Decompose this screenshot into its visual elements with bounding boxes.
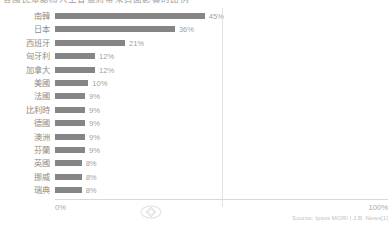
- bar-value-label: 8%: [86, 171, 97, 184]
- category-label: 日本: [0, 23, 50, 36]
- bar-row: 南韓45%: [0, 10, 392, 23]
- bar-row: 美國10%: [0, 77, 392, 90]
- bar-value-label: 8%: [86, 157, 97, 170]
- bar-value-label: 12%: [99, 50, 114, 63]
- bar: [55, 147, 85, 153]
- bar-value-label: 9%: [89, 90, 100, 103]
- x-axis-baseline: [55, 199, 388, 200]
- bar: [55, 67, 95, 73]
- category-label: 德國: [0, 117, 50, 130]
- category-label: 瑞典: [0, 184, 50, 197]
- category-label: 芬蘭: [0, 144, 50, 157]
- bar-value-label: 9%: [89, 144, 100, 157]
- bar-row: 日本36%: [0, 23, 392, 36]
- category-label: 英國: [0, 157, 50, 170]
- bar: [55, 40, 125, 46]
- x-axis-tick-0: 0%: [55, 203, 66, 212]
- bar: [55, 120, 85, 126]
- bar-value-label: 12%: [99, 64, 114, 77]
- category-label: 加拿大: [0, 64, 50, 77]
- bar-row: 德國9%: [0, 117, 392, 130]
- bar-row: 澳洲9%: [0, 131, 392, 144]
- bar-row: 法國9%: [0, 90, 392, 103]
- category-label: 澳洲: [0, 131, 50, 144]
- bar-row: 芬蘭9%: [0, 144, 392, 157]
- bar-row: 加拿大12%: [0, 64, 392, 77]
- bar: [55, 107, 85, 113]
- gridline-50-percent: [222, 8, 223, 207]
- category-label: 美國: [0, 77, 50, 90]
- bar: [55, 160, 82, 166]
- bar-row: 西班牙21%: [0, 37, 392, 50]
- bar-value-label: 36%: [179, 23, 194, 36]
- category-label: 挪威: [0, 171, 50, 184]
- bar-row: 瑞典8%: [0, 184, 392, 197]
- bar: [55, 26, 175, 32]
- chart-title-clipped: 各國民眾認為人工智慧將帶來負面影響的比例: [3, 0, 253, 5]
- bar-row: 比利時9%: [0, 104, 392, 117]
- bar: [55, 93, 85, 99]
- bar-row: 匈牙利12%: [0, 50, 392, 63]
- source-attribution: Source: Ipsos MORI | J.B. News[1]: [292, 215, 388, 221]
- bar-row: 英國8%: [0, 157, 392, 170]
- bar: [55, 13, 205, 19]
- bar-value-label: 8%: [86, 184, 97, 197]
- page-title: 各國民眾認為人工智慧將帶來負面影響的比例: [3, 0, 253, 5]
- bar-value-label: 10%: [92, 77, 107, 90]
- bar: [55, 53, 95, 59]
- category-label: 匈牙利: [0, 50, 50, 63]
- bar-value-label: 21%: [129, 37, 144, 50]
- bar-value-label: 9%: [89, 117, 100, 130]
- category-label: 南韓: [0, 10, 50, 23]
- bar: [55, 174, 82, 180]
- category-label: 比利時: [0, 104, 50, 117]
- bar-chart-figure: 各國民眾認為人工智慧將帶來負面影響的比例 南韓45%日本36%西班牙21%匈牙利…: [0, 0, 392, 232]
- bar-row: 挪威8%: [0, 171, 392, 184]
- bar: [55, 187, 82, 193]
- x-axis-tick-100: 100%: [369, 203, 388, 212]
- bar-value-label: 9%: [89, 131, 100, 144]
- diamond-watermark-icon: [140, 204, 162, 220]
- bar-value-label: 9%: [89, 104, 100, 117]
- category-label: 西班牙: [0, 37, 50, 50]
- category-label: 法國: [0, 90, 50, 103]
- bar: [55, 134, 85, 140]
- bar: [55, 80, 88, 86]
- plot-area: 南韓45%日本36%西班牙21%匈牙利12%加拿大12%美國10%法國9%比利時…: [0, 8, 392, 207]
